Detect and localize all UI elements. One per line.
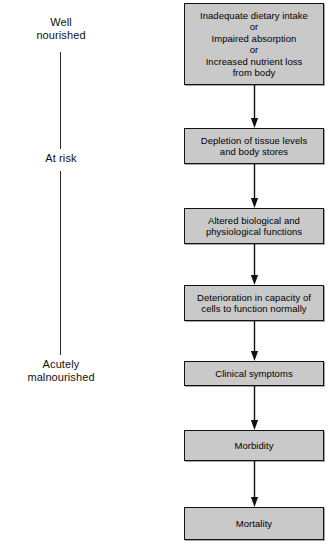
- flow-box-depletion-tissue-levels: Depletion of tissue levels and body stor…: [184, 128, 324, 164]
- flow-box-morbidity: Morbidity: [184, 430, 324, 461]
- arrow-connector-3: [250, 244, 259, 285]
- flow-box-label: Depletion of tissue levels and body stor…: [198, 135, 310, 158]
- axis-line-lower-segment: [60, 171, 61, 355]
- flow-box-clinical-symptoms: Clinical symptoms: [184, 361, 324, 386]
- axis-label-well-nourished: Well nourished: [0, 16, 122, 42]
- flow-box-label: Mortality: [233, 518, 275, 530]
- flow-box-label: Inadequate dietary intake or Impaired ab…: [197, 10, 311, 79]
- flow-box-label: Morbidity: [232, 440, 277, 452]
- flow-box-label: Altered biological and physiological fun…: [203, 215, 305, 238]
- arrow-connector-1: [250, 85, 259, 128]
- axis-label-at-risk: At risk: [0, 152, 122, 165]
- flow-box-inadequate-intake: Inadequate dietary intake or Impaired ab…: [184, 3, 324, 85]
- axis-label-acutely-malnourished: Acutely malnourished: [0, 358, 122, 384]
- flow-box-label: Clinical symptoms: [212, 368, 295, 380]
- flow-box-cell-deterioration: Deterioration in capacity of cells to fu…: [184, 285, 324, 321]
- flow-box-altered-functions: Altered biological and physiological fun…: [184, 208, 324, 244]
- arrow-connector-4: [250, 321, 259, 361]
- flow-box-mortality: Mortality: [184, 507, 324, 540]
- arrow-connector-2: [250, 164, 259, 208]
- flow-column: Inadequate dietary intake or Impaired ab…: [184, 0, 326, 545]
- arrow-connector-5: [250, 386, 259, 430]
- arrow-connector-6: [250, 461, 259, 507]
- severity-axis: Well nourished At risk Acutely malnouris…: [0, 0, 170, 545]
- malnutrition-progression-figure: Well nourished At risk Acutely malnouris…: [0, 0, 336, 545]
- axis-line-upper-segment: [60, 52, 61, 149]
- flow-box-label: Deterioration in capacity of cells to fu…: [194, 292, 314, 315]
